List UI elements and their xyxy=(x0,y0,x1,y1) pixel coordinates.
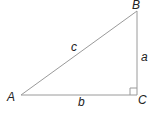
vertex-label-a: A xyxy=(6,90,15,104)
side-c-line xyxy=(21,11,137,95)
side-label-c: c xyxy=(71,40,77,54)
side-label-a: a xyxy=(141,50,148,64)
right-angle-marker xyxy=(130,88,137,95)
side-label-b: b xyxy=(78,95,85,109)
vertex-label-b: B xyxy=(132,0,140,12)
vertex-label-c: C xyxy=(138,93,147,107)
right-triangle-diagram: A B C c a b xyxy=(0,0,154,115)
